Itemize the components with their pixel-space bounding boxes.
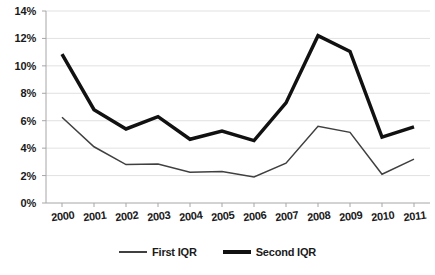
series-line-first-iqr [62, 117, 414, 177]
x-tick-label: 2002 [114, 209, 139, 224]
x-tick-label: 2000 [50, 209, 75, 224]
series-line-second-iqr [62, 36, 414, 141]
y-axis: 0%2%4%6%8%10%12%14% [0, 0, 42, 214]
x-tick-label: 2007 [274, 209, 299, 224]
x-tick-label: 2008 [306, 209, 331, 224]
x-axis: 2000200120022003200420052006200720082009… [46, 206, 430, 240]
y-tick-label: 12% [15, 32, 36, 44]
y-tick-label: 14% [15, 5, 36, 17]
y-tick-label: 6% [21, 115, 37, 127]
x-tick-label: 2005 [210, 209, 235, 224]
chart-legend: First IQRSecond IQR [0, 246, 435, 258]
chart-figure: 0%2%4%6%8%10%12%14% 20002001200220032004… [0, 0, 435, 275]
y-tick-label: 10% [15, 60, 36, 72]
thin-line-swatch [119, 251, 147, 253]
x-tick-label: 2003 [146, 209, 171, 224]
legend-entry[interactable]: First IQR [119, 246, 197, 258]
data-series-layer [46, 11, 430, 203]
x-tick-label: 2004 [178, 209, 203, 224]
legend-entry[interactable]: Second IQR [223, 246, 316, 258]
x-tick-label: 2011 [403, 209, 427, 224]
y-tick-label: 0% [21, 197, 37, 209]
x-tick-label: 2010 [370, 209, 395, 224]
x-tick-label: 2009 [338, 209, 363, 224]
x-tick-label: 2001 [82, 209, 107, 224]
plot-area [46, 11, 430, 203]
y-tick-label: 4% [21, 142, 37, 154]
legend-label: Second IQR [256, 246, 316, 258]
legend-label: First IQR [152, 246, 197, 258]
y-tick-label: 2% [21, 170, 37, 182]
thick-line-swatch [223, 250, 251, 254]
x-tick-label: 2006 [242, 209, 267, 224]
y-tick-label: 8% [21, 87, 37, 99]
